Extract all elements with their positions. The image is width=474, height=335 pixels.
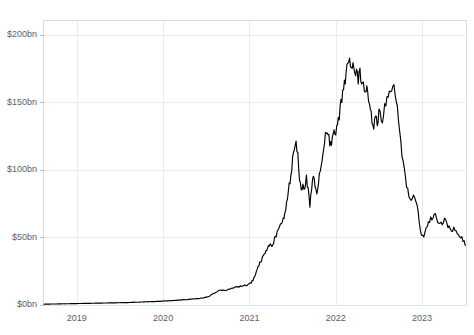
x-axis-tick-label: 2021 (239, 313, 259, 323)
chart-container: $0bn$50bn$100bn$150bn$200bn 201920202021… (0, 0, 474, 335)
y-axis-tick-label: $50bn (12, 232, 37, 242)
x-axis-tick-label: 2023 (412, 313, 432, 323)
x-axis-tick-label: 2022 (326, 313, 346, 323)
y-axis-tick-label: $0bn (17, 299, 37, 309)
y-axis-tick-label: $150bn (7, 97, 37, 107)
y-axis-tick-label: $100bn (7, 164, 37, 174)
line-chart: $0bn$50bn$100bn$150bn$200bn 201920202021… (0, 0, 474, 335)
y-axis-tick-label: $200bn (7, 29, 37, 39)
x-axis-tick-labels: 20192020202120222023 (67, 313, 432, 323)
y-axis-tick-labels: $0bn$50bn$100bn$150bn$200bn (7, 29, 37, 309)
x-axis-tick-label: 2019 (67, 313, 87, 323)
x-axis-tick-label: 2020 (153, 313, 173, 323)
